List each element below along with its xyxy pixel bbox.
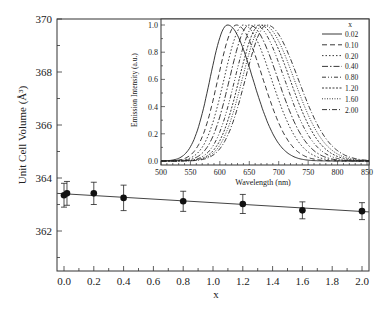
- inset-y-tick-label: 0.2: [148, 130, 158, 139]
- inset-x-tick-label: 550: [184, 168, 196, 177]
- x-tick-label: 1.4: [266, 275, 280, 287]
- inset-x-tick-label: 800: [332, 168, 344, 177]
- x-tick-label: 0.8: [176, 275, 190, 287]
- y-tick-label: 362: [36, 225, 53, 237]
- inset-x-tick-label: 650: [243, 168, 255, 177]
- data-point: [359, 203, 366, 220]
- inset-x-tick-label: 850: [361, 168, 373, 177]
- x-tick-label: 0.6: [147, 275, 161, 287]
- x-tick-label: 0.2: [87, 275, 101, 287]
- inset-x-tick-label: 700: [273, 168, 285, 177]
- data-point: [299, 202, 306, 219]
- inset-legend: x0.020.100.200.400.801.201.602.00: [320, 20, 366, 116]
- y-axis-label: Unit Cell Volume (Å³): [16, 85, 29, 184]
- legend-label: 0.20: [345, 52, 358, 61]
- chart-canvas: 0.00.20.40.60.81.01.21.41.61.82.0x362364…: [0, 0, 387, 312]
- legend-label: 2.00: [345, 106, 358, 115]
- data-point: [240, 194, 247, 213]
- y-axis: 362364366368370Unit Cell Volume (Å³): [16, 13, 62, 258]
- inset-y-axis-label: Emission Intensity (a.u.): [130, 53, 139, 127]
- legend-label: 0.10: [345, 41, 358, 50]
- inset-x-tick-label: 500: [155, 168, 167, 177]
- legend-label: 1.60: [345, 95, 358, 104]
- x-tick-label: 0.0: [57, 275, 71, 287]
- data-points: [61, 181, 366, 219]
- y-tick-label: 364: [36, 172, 53, 184]
- x-axis-label: x: [213, 288, 219, 300]
- x-tick-label: 2.0: [355, 275, 369, 287]
- inset-y-tick-label: 0.6: [148, 75, 158, 84]
- y-tick-label: 370: [36, 13, 53, 25]
- legend-title: x: [348, 20, 352, 29]
- fit-line: [57, 193, 369, 212]
- x-tick-label: 1.6: [296, 275, 310, 287]
- x-tick-label: 1.8: [325, 275, 339, 287]
- inset-y-tick-label: 1.0: [148, 21, 158, 30]
- data-point: [180, 191, 187, 211]
- inset-plot: 500550600650700750800850Wavelength (nm)0…: [130, 19, 373, 187]
- inset-x-axis-label: Wavelength (nm): [235, 178, 291, 187]
- inset-x-tick-label: 750: [302, 168, 314, 177]
- inset-y-axis: 0.00.20.40.60.81.0Emission Intensity (a.…: [130, 21, 165, 166]
- y-tick-label: 368: [36, 66, 53, 78]
- legend-label: 0.40: [345, 62, 358, 71]
- data-point: [120, 185, 127, 210]
- legend-label: 1.20: [345, 84, 358, 93]
- inset-x-tick-label: 600: [214, 168, 226, 177]
- x-tick-label: 1.0: [206, 275, 220, 287]
- x-tick-label: 0.4: [117, 275, 131, 287]
- data-point: [91, 182, 98, 204]
- data-point: [64, 181, 71, 205]
- legend-label: 0.80: [345, 73, 358, 82]
- inset-y-tick-label: 0.8: [148, 48, 158, 57]
- inset-y-tick-label: 0.4: [148, 103, 158, 112]
- legend-label: 0.02: [345, 30, 358, 39]
- inset-y-tick-label: 0.0: [148, 157, 158, 166]
- y-tick-label: 366: [36, 119, 53, 131]
- x-tick-label: 1.2: [236, 275, 250, 287]
